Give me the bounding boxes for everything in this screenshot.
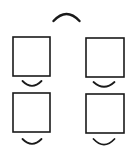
square-top-right xyxy=(86,38,124,77)
smile-arc-icon-bottom-left xyxy=(23,139,42,144)
diagram-canvas xyxy=(0,0,132,150)
smile-arc-icon-bottom-right xyxy=(94,139,115,145)
diagram-shapes xyxy=(13,14,124,145)
smile-arc-icon-top-left xyxy=(23,81,42,86)
smile-arc-icon-top-right xyxy=(94,82,115,87)
square-top-left xyxy=(13,37,50,76)
square-bottom-right xyxy=(86,94,124,133)
square-bottom-left xyxy=(13,93,50,132)
frown-arc-icon xyxy=(54,14,80,21)
